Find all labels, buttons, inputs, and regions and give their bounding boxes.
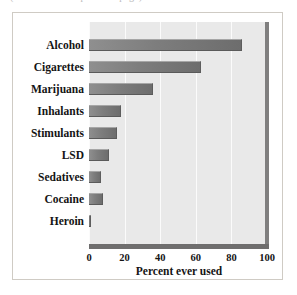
category-label: Heroin [50, 210, 84, 232]
x-tick-label: 100 [259, 251, 275, 265]
bar [89, 193, 103, 205]
bar-row [89, 78, 267, 100]
x-tick-label: 0 [86, 251, 91, 265]
bar [89, 39, 242, 51]
bar-row [89, 100, 267, 122]
x-axis-title: Percent ever used [89, 265, 269, 277]
category-label: LSD [62, 144, 84, 166]
bar [89, 149, 109, 161]
category-axis-labels: AlcoholCigarettesMarijuanaInhalantsStimu… [18, 34, 88, 232]
x-tick-label: 40 [155, 251, 166, 265]
bar-row [89, 188, 267, 210]
bar-row [89, 144, 267, 166]
x-tick-label: 60 [191, 251, 202, 265]
category-label: Alcohol [46, 34, 84, 56]
panel-right-edge [265, 22, 269, 244]
bar-row [89, 210, 267, 232]
bar [89, 127, 117, 139]
category-label: Stimulants [31, 122, 84, 144]
bar-row [89, 56, 267, 78]
x-axis-line [89, 244, 269, 249]
bar [89, 215, 91, 227]
bar-row [89, 122, 267, 144]
category-label: Marijuana [31, 78, 84, 100]
bar-row [89, 34, 267, 56]
bar [89, 61, 201, 73]
bars-group [89, 34, 267, 232]
category-label: Cocaine [44, 188, 84, 210]
bar [89, 105, 121, 117]
category-label: Cigarettes [34, 56, 84, 78]
x-tick-label: 80 [226, 251, 237, 265]
bar-row [89, 166, 267, 188]
clipped-caption-text: (continued from previous page) [10, 0, 210, 3]
bar [89, 171, 101, 183]
category-label: Inhalants [37, 100, 84, 122]
plot-panel [89, 22, 267, 244]
x-axis-tick-labels: 020406080100 [89, 251, 269, 265]
category-label: Sedatives [38, 166, 84, 188]
x-tick-label: 20 [119, 251, 130, 265]
bar-chart: AlcoholCigarettesMarijuanaInhalantsStimu… [18, 20, 276, 272]
bar [89, 83, 153, 95]
figure-container: (continued from previous page) AlcoholCi… [0, 0, 297, 295]
